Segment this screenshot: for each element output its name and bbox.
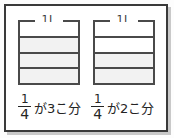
caption-left: 1 4 が3こ分 [13,94,86,122]
caption-right: 1 4 が2こ分 [86,94,159,122]
quarter-band [95,22,153,38]
quarter-band [20,54,78,70]
fraction-numerator: 1 [94,94,102,106]
container-panel-left: 1L [15,13,82,85]
containers-row: 1L 1L [11,13,161,85]
fraction-denominator: 4 [93,107,102,122]
liter-container-left: 1L [18,13,80,85]
fraction-numerator: 1 [21,94,29,106]
figure-content: 1L 1L [4,4,168,132]
quarter-band [95,69,153,83]
quarter-band [95,54,153,70]
figure-root: 1L 1L [0,0,174,138]
container-panel-right: 1L [90,13,157,85]
quarter-band [20,69,78,83]
captions-row: 1 4 が3こ分 1 4 が2こ分 [11,90,161,126]
fraction-one-quarter-left: 1 4 [18,94,31,122]
fraction-denominator: 4 [20,107,29,122]
liter-container-right: 1L [93,13,155,85]
quarter-band [20,38,78,54]
caption-text-right: が2こ分 [107,101,153,116]
fraction-one-quarter-right: 1 4 [91,94,104,122]
quarter-band [20,22,78,38]
caption-text-left: が3こ分 [34,101,80,116]
quarter-bands-right [95,22,153,83]
quarter-band [95,38,153,54]
quarter-bands-left [20,22,78,83]
